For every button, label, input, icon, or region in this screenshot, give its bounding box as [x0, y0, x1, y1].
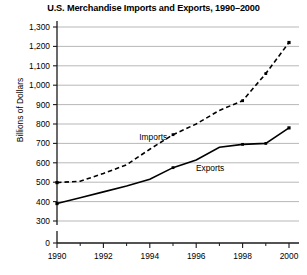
y-tick-label: 1,100	[29, 61, 50, 71]
x-tick-label: 1992	[94, 251, 113, 261]
series-annotation-label: Exports	[196, 163, 224, 173]
x-tick-label: 1998	[233, 251, 252, 261]
plot-area: 03004005006007008009001,0001,1001,2001,3…	[0, 0, 307, 275]
y-axis-ticks: 03004005006007008009001,0001,1001,2001,3…	[29, 22, 57, 248]
x-axis-ticks: 199019921994199619982000	[48, 243, 299, 261]
y-tick-label: 800	[36, 119, 50, 129]
y-tick-label: 0	[45, 238, 50, 248]
x-tick-label: 1996	[187, 251, 206, 261]
series-point-marker	[264, 72, 267, 75]
series-line-imports	[57, 43, 289, 183]
series-point-marker	[287, 41, 290, 44]
series-annotation-label: Imports	[139, 132, 167, 142]
chart-figure: U.S. Merchandise Imports and Exports, 19…	[0, 0, 307, 275]
x-tick-label: 1994	[140, 251, 159, 261]
series-point-marker	[55, 181, 58, 184]
y-tick-label: 1,300	[29, 22, 50, 32]
y-tick-label: 700	[36, 138, 50, 148]
series-line-exports	[57, 128, 289, 204]
series-point-marker	[55, 202, 58, 205]
series-point-marker	[241, 143, 244, 146]
y-tick-label: 1,200	[29, 41, 50, 51]
y-tick-label: 400	[36, 197, 50, 207]
y-tick-label: 900	[36, 100, 50, 110]
y-tick-label: 600	[36, 158, 50, 168]
x-tick-label: 1990	[48, 251, 67, 261]
series-point-marker	[241, 99, 244, 102]
series-point-marker	[172, 133, 175, 136]
series-point-marker	[172, 166, 175, 169]
series-point-marker	[264, 142, 267, 145]
y-tick-label: 1,000	[29, 80, 50, 90]
axis-lines	[57, 21, 299, 243]
y-tick-label: 300	[36, 216, 50, 226]
series-point-marker	[287, 126, 290, 129]
y-tick-label: 500	[36, 177, 50, 187]
gridlines	[57, 27, 299, 221]
x-tick-label: 2000	[280, 251, 299, 261]
